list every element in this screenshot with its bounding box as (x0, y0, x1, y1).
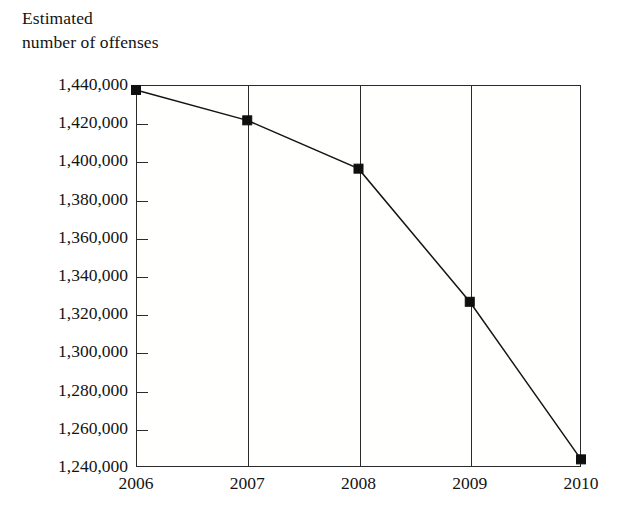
y-axis-tick-mark (137, 277, 148, 278)
y-axis-tick-mark (137, 430, 148, 431)
plot-area (136, 85, 581, 467)
y-axis-tick-label: 1,340,000 (10, 267, 128, 285)
y-axis-tick-label: 1,260,000 (10, 420, 128, 438)
y-axis-tick-labels: 1,440,0001,420,0001,400,0001,380,0001,36… (0, 0, 128, 511)
y-axis-tick-mark (137, 239, 148, 240)
x-axis-tick-labels: 20062007200820092010 (0, 472, 631, 504)
y-axis-tick-mark (137, 162, 148, 163)
y-axis-tick-label: 1,320,000 (10, 305, 128, 323)
y-axis-tick-mark (137, 353, 148, 354)
y-axis-tick-label: 1,400,000 (10, 152, 128, 170)
x-axis-tick-label: 2010 (536, 472, 626, 494)
y-axis-tick-mark (137, 124, 148, 125)
vertical-gridline (471, 86, 472, 466)
y-axis-tick-label: 1,280,000 (10, 382, 128, 400)
x-axis-tick-label: 2008 (314, 472, 404, 494)
x-axis-tick-label: 2007 (202, 472, 292, 494)
y-axis-tick-label: 1,360,000 (10, 229, 128, 247)
y-axis-tick-label: 1,380,000 (10, 191, 128, 209)
line-chart: Estimatednumber of offenses 1,440,0001,4… (0, 0, 631, 511)
vertical-gridline (360, 86, 361, 466)
y-axis-tick-mark (137, 392, 148, 393)
x-axis-tick-label: 2006 (91, 472, 181, 494)
x-axis-tick-label: 2009 (425, 472, 515, 494)
y-axis-tick-label: 1,420,000 (10, 114, 128, 132)
y-axis-tick-label: 1,440,000 (10, 76, 128, 94)
vertical-gridline (248, 86, 249, 466)
y-axis-tick-mark (137, 201, 148, 202)
y-axis-tick-mark (137, 315, 148, 316)
y-axis-tick-label: 1,300,000 (10, 343, 128, 361)
